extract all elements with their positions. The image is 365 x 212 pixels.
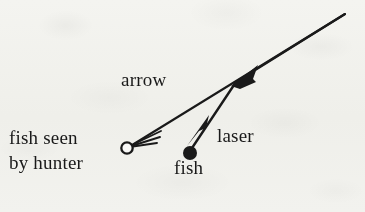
refraction-diagram	[0, 0, 365, 212]
figure-canvas: arrow laser fish fish seen by hunter	[0, 0, 365, 212]
label-fish-seen-line2: by hunter	[9, 153, 83, 172]
laser-ray-arrowhead-lower	[187, 115, 209, 146]
label-fish-seen-line1: fish seen	[9, 128, 78, 147]
laser-ray-arrowhead-upper	[231, 65, 258, 89]
label-laser: laser	[217, 126, 254, 145]
label-fish: fish	[174, 158, 203, 177]
fish-apparent-marker	[121, 142, 132, 153]
laser-ray	[187, 14, 345, 148]
label-arrow: arrow	[121, 70, 166, 89]
